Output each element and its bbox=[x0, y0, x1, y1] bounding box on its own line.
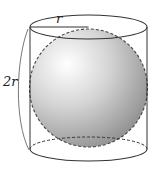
height-bracket bbox=[18, 29, 29, 150]
sphere bbox=[30, 29, 148, 147]
diagram-canvas: r 2r bbox=[0, 0, 160, 174]
radius-label: r bbox=[56, 11, 63, 26]
height-label: 2r bbox=[2, 74, 18, 89]
cylinder-bottom-front bbox=[30, 149, 147, 161]
